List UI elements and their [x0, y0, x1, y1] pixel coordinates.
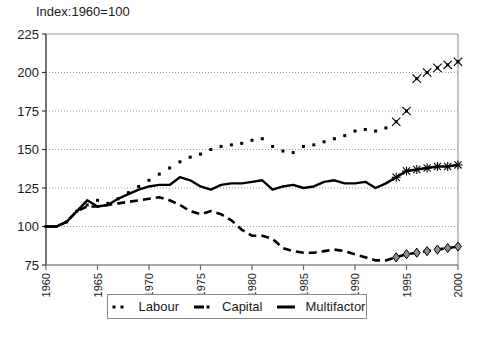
axis-lines: [46, 34, 458, 265]
chart-legend: LabourCapitalMultifactor: [107, 294, 367, 319]
legend-label: Capital: [222, 299, 262, 314]
svg-text:225: 225: [17, 27, 39, 42]
legend-item-labour[interactable]: Labour: [109, 299, 179, 314]
svg-text:175: 175: [17, 104, 39, 119]
legend-label: Labour: [139, 299, 179, 314]
legend-label: Multifactor: [305, 299, 365, 314]
x-axis-tick-labels: 196019651970197519801985199019952000: [40, 265, 464, 297]
svg-text:1960: 1960: [40, 273, 52, 297]
svg-text:1995: 1995: [401, 273, 413, 297]
y-axis-tick-labels: 22520017515012510075: [17, 27, 46, 273]
svg-text:100: 100: [17, 219, 39, 234]
legend-item-multifactor[interactable]: Multifactor: [275, 299, 365, 314]
legend-items: LabourCapitalMultifactor: [108, 295, 366, 318]
legend-swatch-dotted-icon: [109, 301, 135, 313]
svg-text:2000: 2000: [452, 273, 464, 297]
chart-container: Index:1960=100 22520017515012510075 1960…: [0, 0, 480, 339]
svg-text:75: 75: [25, 258, 39, 273]
svg-text:125: 125: [17, 181, 39, 196]
chart-plot-area: 22520017515012510075 1960196519701975198…: [0, 0, 480, 339]
legend-item-capital[interactable]: Capital: [192, 299, 262, 314]
legend-swatch-dashed-icon: [192, 301, 218, 313]
svg-text:150: 150: [17, 142, 39, 157]
svg-text:200: 200: [17, 65, 39, 80]
svg-text:1965: 1965: [92, 273, 104, 297]
legend-swatch-solid-icon: [275, 301, 301, 313]
data-series-layer: [45, 58, 463, 262]
